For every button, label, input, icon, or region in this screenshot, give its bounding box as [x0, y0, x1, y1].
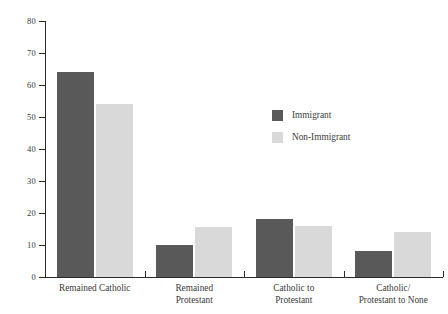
legend-item[interactable]: Immigrant [272, 104, 392, 126]
bar-immigrant [57, 72, 94, 277]
bar-immigrant [256, 219, 293, 277]
y-axis-tick [39, 117, 45, 118]
bar-immigrant [355, 251, 392, 277]
bar-nonimmigrant [295, 226, 332, 277]
y-axis-tick-label-text: 80 [8, 17, 36, 26]
y-axis-tick [39, 53, 45, 54]
x-axis-separator-tick [344, 271, 345, 277]
y-axis-tick [39, 181, 45, 182]
x-axis-separator-tick [244, 271, 245, 277]
y-axis-tick-label-text: 70 [8, 49, 36, 58]
y-axis-tick [39, 245, 45, 246]
legend-item[interactable]: Non-Immigrant [272, 126, 392, 148]
chart-legend: ImmigrantNon-Immigrant [272, 104, 392, 148]
y-axis-tick [39, 85, 45, 86]
x-axis-line [45, 277, 443, 278]
y-axis-tick [39, 213, 45, 214]
legend-item-label: Non-Immigrant [292, 132, 350, 143]
bar-chart: 01020304050607080 Remained CatholicRemai… [0, 0, 448, 314]
y-axis-tick-label-text: 30 [8, 177, 36, 186]
y-axis-tick-label-text: 60 [8, 81, 36, 90]
bar-nonimmigrant [96, 104, 133, 277]
y-axis-tick-label-text: 40 [8, 145, 36, 154]
y-axis-tick [39, 277, 45, 278]
y-axis-tick-label: 30 [8, 177, 36, 186]
x-axis-category-label-line: Catholic/ [323, 283, 448, 295]
x-axis-separator-tick [443, 271, 444, 277]
y-axis-tick-label: 80 [8, 17, 36, 26]
y-axis-tick-label: 10 [8, 241, 36, 250]
y-axis-tick [39, 149, 45, 150]
y-axis-tick-label: 70 [8, 49, 36, 58]
bar-nonimmigrant [195, 227, 232, 277]
y-axis-tick-label-text: 50 [8, 113, 36, 122]
y-axis-tick-label-text: 20 [8, 209, 36, 218]
legend-swatch-icon [272, 132, 283, 143]
y-axis-tick-label: 40 [8, 145, 36, 154]
y-axis-tick-label: 20 [8, 209, 36, 218]
y-axis-tick-label-text: 0 [8, 273, 36, 282]
y-axis-line [45, 21, 46, 278]
y-axis-tick-label-text: 10 [8, 241, 36, 250]
bar-immigrant [156, 245, 193, 277]
y-axis-tick-label: 0 [8, 273, 36, 282]
x-axis-separator-tick [145, 271, 146, 277]
x-axis-category-label: Catholic/Protestant to None [323, 283, 448, 306]
legend-item-label: Immigrant [292, 110, 331, 121]
legend-swatch-icon [272, 110, 283, 121]
y-axis-tick-label: 60 [8, 81, 36, 90]
x-axis-category-label-line: Protestant to None [323, 295, 448, 307]
y-axis-tick [39, 21, 45, 22]
y-axis-tick-label: 50 [8, 113, 36, 122]
bar-nonimmigrant [394, 232, 431, 277]
